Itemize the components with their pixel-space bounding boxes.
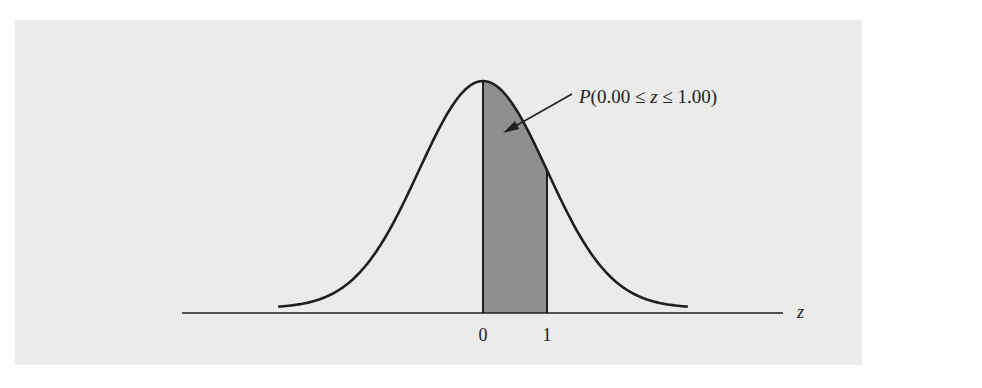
shaded-area [483, 81, 547, 313]
tick-label-1: 1 [543, 325, 552, 345]
annotation-label: P(0.00 ≤ z ≤ 1.00) [578, 86, 717, 108]
normal-curve-chart: P(0.00 ≤ z ≤ 1.00) 0 1 z [0, 0, 982, 388]
tick-label-0: 0 [479, 325, 488, 345]
annotation-arrow [512, 94, 572, 128]
x-axis-label: z [796, 302, 804, 322]
